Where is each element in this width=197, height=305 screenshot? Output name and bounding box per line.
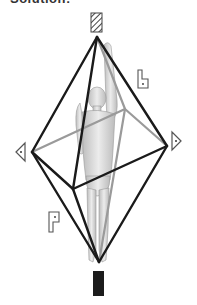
right-triangle-marker <box>172 132 181 150</box>
top-hatched-marker <box>91 13 102 32</box>
bottom-black-marker <box>93 271 104 296</box>
b-shape-marker <box>138 70 148 88</box>
left-triangle-marker <box>16 143 25 161</box>
p-shape-marker <box>49 212 59 232</box>
octahedron-diagram <box>0 0 197 305</box>
